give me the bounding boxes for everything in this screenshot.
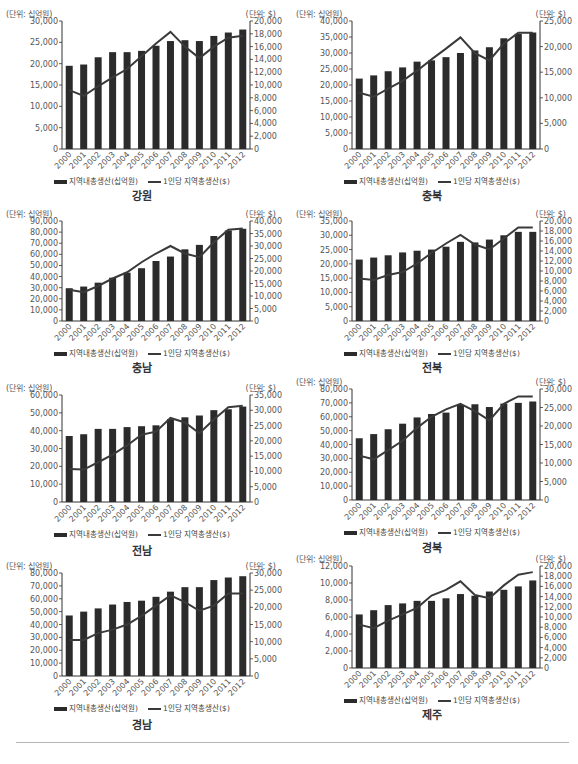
svg-text:15,000: 15,000 [544, 68, 572, 77]
legend-line-label: 1인당 지역총생산($) [453, 177, 520, 186]
line-swatch-icon [438, 353, 451, 355]
svg-text:10,000: 10,000 [254, 292, 282, 301]
right-axis-unit: (단위: $) [245, 560, 276, 571]
svg-text:12,000: 12,000 [544, 603, 572, 612]
chart-jeonbuk: 05,00010,00015,00020,00025,00030,00035,0… [292, 208, 572, 390]
svg-text:30,000: 30,000 [320, 454, 348, 463]
region-title: 전북 [292, 359, 572, 375]
line-swatch-icon [438, 532, 451, 534]
legend-line-label: 1인당 지역총생산($) [163, 177, 230, 186]
svg-text:70,000: 70,000 [30, 239, 58, 248]
svg-text:5,000: 5,000 [544, 119, 567, 128]
svg-text:15,000: 15,000 [544, 441, 572, 450]
svg-text:2012: 2012 [226, 677, 247, 698]
region-title: 전남 [2, 542, 282, 558]
svg-text:20,000: 20,000 [30, 60, 58, 69]
svg-text:0: 0 [53, 498, 58, 507]
svg-text:35,000: 35,000 [254, 230, 282, 239]
svg-text:4,000: 4,000 [325, 630, 348, 639]
line-swatch-icon [148, 708, 161, 710]
legend: 지역내총생산(십억원)1인당 지역총생산($) [292, 347, 572, 358]
svg-text:2012: 2012 [516, 322, 537, 343]
svg-text:25,000: 25,000 [254, 422, 282, 431]
svg-text:50,000: 50,000 [30, 608, 58, 617]
bar-swatch-icon [54, 707, 67, 711]
svg-text:8,000: 8,000 [544, 277, 567, 286]
svg-text:0: 0 [254, 498, 259, 507]
line-swatch-icon [438, 700, 451, 702]
svg-text:50,000: 50,000 [30, 409, 58, 418]
svg-text:25,000: 25,000 [320, 65, 348, 74]
left-axis-unit: (단위: 십억원) [6, 8, 52, 19]
svg-text:8,000: 8,000 [254, 94, 277, 103]
svg-text:10,000: 10,000 [30, 659, 58, 668]
svg-text:6,000: 6,000 [544, 287, 567, 296]
region-title: 강원 [2, 187, 282, 203]
svg-text:40,000: 40,000 [30, 427, 58, 436]
svg-text:10,000: 10,000 [30, 306, 58, 315]
svg-text:8,000: 8,000 [544, 623, 567, 632]
legend-line-label: 1인당 지역총생산($) [453, 696, 520, 705]
svg-text:40,000: 40,000 [30, 621, 58, 630]
line-swatch-icon [438, 181, 451, 183]
svg-text:20,000: 20,000 [254, 267, 282, 276]
svg-text:2012: 2012 [516, 669, 537, 690]
chart-gangwon: 05,00010,00015,00020,00025,00030,00002,0… [2, 8, 282, 190]
svg-text:6,000: 6,000 [254, 107, 277, 116]
legend: 지역내총생산(십억원)1인당 지역총생산($) [292, 694, 572, 705]
right-axis-unit: (단위: $) [535, 8, 566, 19]
svg-text:0: 0 [53, 672, 58, 681]
svg-text:2012: 2012 [226, 322, 247, 343]
svg-text:70,000: 70,000 [30, 582, 58, 591]
svg-text:0: 0 [544, 317, 549, 326]
right-axis-unit: (단위: $) [245, 208, 276, 219]
legend: 지역내총생산(십억원)1인당 지역총생산($) [2, 702, 282, 713]
left-axis-unit: (단위: 십억원) [296, 208, 342, 219]
svg-text:18,000: 18,000 [544, 572, 572, 581]
chart-gyeongbuk: 010,00020,00030,00040,00050,00060,00070,… [292, 376, 572, 558]
left-axis-unit: (단위: 십억원) [296, 376, 342, 387]
legend-bar-label: 지역내총생산(십억원) [359, 349, 428, 358]
svg-text:15,000: 15,000 [320, 97, 348, 106]
bar-swatch-icon [54, 180, 67, 184]
svg-text:0: 0 [254, 672, 259, 681]
svg-text:6,000: 6,000 [544, 633, 567, 642]
legend-line-label: 1인당 지역총생산($) [163, 349, 230, 358]
chart-jeju: 02,0004,0006,0008,00010,00012,00002,0004… [292, 553, 572, 735]
bar-swatch-icon [54, 533, 67, 537]
svg-text:2012: 2012 [226, 150, 247, 171]
svg-text:10,000: 10,000 [544, 613, 572, 622]
svg-text:30,000: 30,000 [30, 445, 58, 454]
bar-swatch-icon [344, 352, 357, 356]
svg-text:20,000: 20,000 [30, 295, 58, 304]
svg-text:20,000: 20,000 [254, 603, 282, 612]
svg-text:35,000: 35,000 [320, 33, 348, 42]
svg-text:30,000: 30,000 [30, 284, 58, 293]
svg-text:60,000: 60,000 [320, 413, 348, 422]
left-axis-unit: (단위: 십억원) [296, 553, 342, 564]
svg-text:30,000: 30,000 [254, 242, 282, 251]
chart-chungbuk: 05,00010,00015,00020,00025,00030,00035,0… [292, 8, 572, 190]
chart-svg: 010,00020,00030,00040,00050,00060,00070,… [2, 560, 282, 742]
svg-text:14,000: 14,000 [544, 593, 572, 602]
svg-text:12,000: 12,000 [544, 257, 572, 266]
svg-text:10,000: 10,000 [30, 102, 58, 111]
svg-text:20,000: 20,000 [320, 468, 348, 477]
legend: 지역내총생산(십억원)1인당 지역총생산($) [2, 528, 282, 539]
svg-text:10,000: 10,000 [254, 638, 282, 647]
legend-line-label: 1인당 지역총생산($) [163, 704, 230, 713]
svg-text:0: 0 [53, 317, 58, 326]
svg-text:20,000: 20,000 [544, 422, 572, 431]
legend-bar-label: 지역내총생산(십억원) [69, 530, 138, 539]
region-title: 경남 [2, 716, 282, 732]
svg-text:4,000: 4,000 [544, 644, 567, 653]
svg-text:15,000: 15,000 [320, 274, 348, 283]
svg-text:16,000: 16,000 [254, 43, 282, 52]
svg-text:30,000: 30,000 [320, 49, 348, 58]
right-axis-unit: (단위: $) [245, 8, 276, 19]
line-swatch-icon [148, 181, 161, 183]
svg-text:25,000: 25,000 [544, 404, 572, 413]
svg-text:0: 0 [343, 145, 348, 154]
svg-text:15,000: 15,000 [254, 621, 282, 630]
svg-text:0: 0 [343, 496, 348, 505]
